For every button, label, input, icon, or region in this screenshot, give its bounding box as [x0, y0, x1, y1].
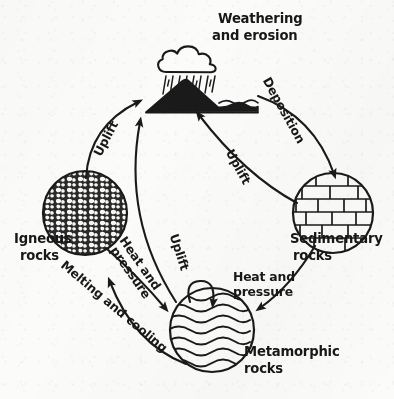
mountain-icon	[146, 79, 258, 112]
arrow-uplift-sedimentary	[199, 115, 297, 203]
weathering-erosion-scene	[146, 46, 258, 112]
label-metamorphic-rocks-line1: Metamorphic	[244, 345, 340, 359]
title-weathering-erosion-line1: Weathering	[218, 12, 302, 26]
metamorphic-rocks-node	[168, 288, 254, 372]
label-igneous-rocks-line1: Igneous	[14, 232, 72, 246]
label-igneous-rocks-line2: rocks	[20, 249, 59, 263]
rock-cycle-svg	[0, 0, 394, 399]
cloud-icon	[158, 46, 216, 72]
label-sedimentary-rocks-line2: rocks	[293, 249, 332, 263]
title-weathering-erosion-line2: and erosion	[212, 29, 297, 43]
label-heat-pressure-right-line1: Heat and	[233, 270, 295, 283]
label-heat-pressure-right-line2: pressure	[233, 285, 293, 298]
label-metamorphic-rocks-line2: rocks	[244, 362, 283, 376]
rock-cycle-figure: Weathering and erosion Igneous rocks Sed…	[0, 0, 394, 399]
label-sedimentary-rocks-line1: Sedimentary	[290, 232, 383, 246]
